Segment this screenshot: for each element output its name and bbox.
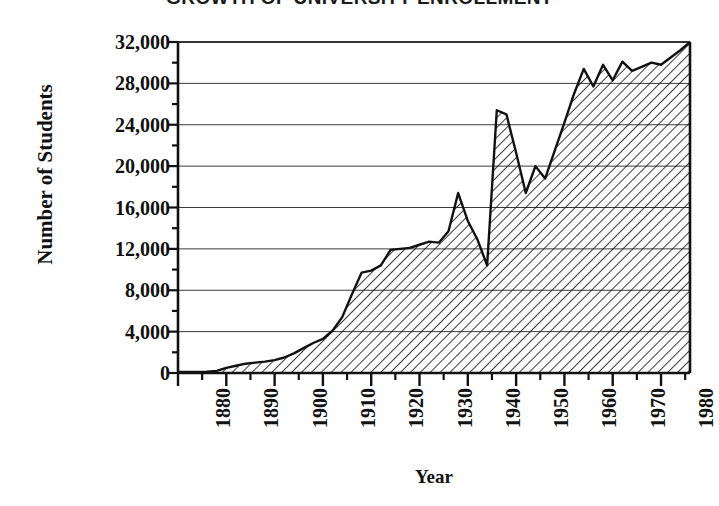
x-axis-ticks	[178, 373, 685, 386]
plot-area	[0, 0, 719, 506]
chart-figure: GROWTH OF UNIVERSITY ENROLLMENT Number o…	[0, 0, 719, 506]
y-axis-ticks	[167, 42, 178, 373]
